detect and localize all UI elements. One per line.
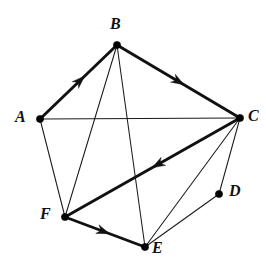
vertex-dot-f [61,213,68,220]
graph-edge-c-e [145,118,240,247]
edge-layer [40,45,240,247]
vertex-label-d: D [229,183,241,199]
graph-figure: ABCDEF [0,0,266,260]
vertex-dot-e [141,243,148,250]
graph-edge-b-e [117,45,145,247]
arrowhead-layer [72,74,184,233]
vertex-dot-d [215,190,222,197]
graph-edge-a-f [40,119,65,217]
vertex-label-f: F [40,206,51,222]
vertex-dot-layer [36,41,243,250]
vertex-dot-c [236,114,243,121]
vertex-label-a: A [15,109,26,125]
vertex-dot-b [113,41,120,48]
graph-edge-a-c [40,118,240,119]
vertex-dot-a [36,115,43,122]
vertex-label-e: E [152,240,163,256]
vertex-label-c: C [248,108,259,124]
vertex-label-b: B [110,16,121,32]
